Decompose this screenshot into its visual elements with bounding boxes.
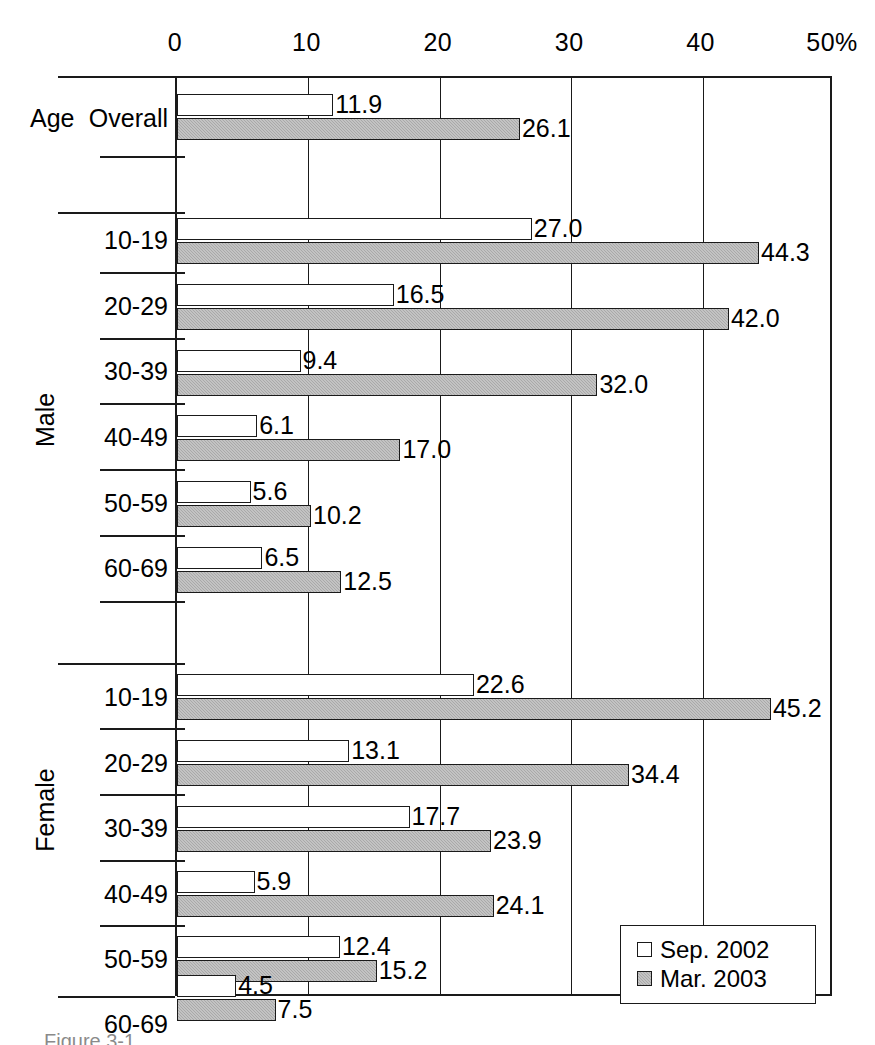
bar-value-label: 17.7 [412, 804, 461, 829]
bar-sep-female-20-29: 13.1 [177, 740, 349, 762]
bar-mar-female-10-19: 45.2 [177, 698, 771, 720]
separator-rule [100, 272, 175, 274]
category-label-male-40-49: 40-49 [104, 425, 168, 450]
legend-swatch-white-square [637, 942, 652, 957]
y-axis-tick [175, 601, 185, 603]
bar-mar-male-30-39: 32.0 [177, 374, 597, 396]
bar-value-label: 32.0 [599, 372, 648, 397]
bar-sep-male-10-19: 27.0 [177, 218, 532, 240]
bar-sep-female-40-49: 5.9 [177, 871, 255, 893]
bar-sep-age-overall: 11.9 [177, 94, 333, 116]
legend-item-mar-2003: Mar. 2003 [637, 964, 801, 993]
y-axis-tick [175, 403, 185, 405]
y-axis-tick [175, 794, 185, 796]
bar-value-label: 17.0 [402, 437, 451, 462]
bar-value-label: 27.0 [534, 216, 583, 241]
separator-rule [100, 794, 175, 796]
legend-item-sep-2002: Sep. 2002 [637, 935, 801, 964]
bar-value-label: 24.1 [496, 893, 545, 918]
bar-value-label: 42.0 [731, 306, 780, 331]
bar-mar-female-60-69: 7.5 [177, 999, 276, 1021]
legend-swatch-gray-square [637, 971, 652, 986]
bar-value-label: 22.6 [476, 672, 525, 697]
separator-rule [58, 76, 175, 78]
legend-label-mar-2003: Mar. 2003 [660, 964, 767, 993]
category-label-female-30-39: 30-39 [104, 816, 168, 841]
bar-sep-male-20-29: 16.5 [177, 284, 394, 306]
bar-sep-female-50-59: 12.4 [177, 936, 340, 958]
legend: Sep. 2002 Mar. 2003 [620, 925, 816, 1004]
category-label-female-10-19: 10-19 [104, 685, 168, 710]
bar-value-label: 26.1 [522, 116, 571, 141]
bar-value-label: 23.9 [493, 828, 542, 853]
bar-sep-female-10-19: 22.6 [177, 674, 474, 696]
gridline-10 [308, 78, 309, 994]
separator-rule [100, 156, 175, 158]
x-axis-tick-50pct: 50% [806, 30, 858, 55]
bar-value-label: 6.5 [264, 545, 299, 570]
separator-rule [100, 925, 175, 927]
bar-mar-male-20-29: 42.0 [177, 308, 729, 330]
bar-mar-male-40-49: 17.0 [177, 439, 400, 461]
separator-rule [100, 338, 175, 340]
bar-value-label: 6.1 [259, 413, 294, 438]
bar-value-label: 5.9 [257, 869, 292, 894]
category-label-female-40-49: 40-49 [104, 882, 168, 907]
bar-mar-male-50-59: 10.2 [177, 505, 311, 527]
y-axis-tick [175, 272, 185, 274]
category-label-age-overall: Overall [89, 106, 168, 131]
bar-value-label: 10.2 [313, 503, 362, 528]
bar-value-label: 9.4 [303, 348, 338, 373]
bar-mar-female-40-49: 24.1 [177, 895, 494, 917]
y-axis-tick [175, 338, 185, 340]
category-label-male-60-69: 60-69 [104, 556, 168, 581]
bar-sep-female-60-69: 4.5 [177, 975, 236, 997]
group-label-female: Female [33, 768, 58, 851]
category-label-male-30-39: 30-39 [104, 359, 168, 384]
x-axis-tick-10: 10 [292, 30, 321, 55]
bar-value-label: 16.5 [396, 282, 445, 307]
bar-value-label: 13.1 [351, 738, 400, 763]
separator-rule [100, 403, 175, 405]
y-axis-tick [175, 925, 185, 927]
y-axis-tick [175, 469, 185, 471]
bar-mar-male-10-19: 44.3 [177, 242, 759, 264]
group-label-male: Male [33, 393, 58, 447]
separator-rule [100, 469, 175, 471]
plot-area: 11.926.127.044.316.542.09.432.06.117.05.… [175, 76, 832, 996]
x-axis-tick-40: 40 [686, 30, 715, 55]
bar-mar-age-overall: 26.1 [177, 118, 520, 140]
y-axis-tick [175, 156, 185, 158]
bar-value-label: 44.3 [761, 240, 810, 265]
bar-mar-female-20-29: 34.4 [177, 764, 629, 786]
y-axis-tick [175, 728, 185, 730]
category-label-male-50-59: 50-59 [104, 491, 168, 516]
separator-rule [100, 601, 175, 603]
bar-mar-female-30-39: 23.9 [177, 830, 491, 852]
x-axis-tick-20: 20 [423, 30, 452, 55]
y-axis-tick [175, 535, 185, 537]
category-label-female-20-29: 20-29 [104, 751, 168, 776]
y-axis-tick [175, 212, 185, 214]
figure-caption: Figure 3-1 [44, 1030, 135, 1045]
bar-sep-male-30-39: 9.4 [177, 350, 301, 372]
y-axis-tick [175, 860, 185, 862]
gridline-20 [440, 78, 441, 994]
bar-value-label: 5.6 [253, 479, 288, 504]
bar-sep-male-40-49: 6.1 [177, 415, 257, 437]
bar-value-label: 11.9 [335, 92, 382, 117]
separator-rule [100, 860, 175, 862]
bar-value-label: 15.2 [379, 958, 428, 983]
bar-value-label: 4.5 [238, 973, 273, 998]
legend-label-sep-2002: Sep. 2002 [660, 935, 769, 964]
x-axis-tick-30: 30 [555, 30, 584, 55]
bar-value-label: 34.4 [631, 762, 680, 787]
separator-rule [100, 728, 175, 730]
y-axis-tick [175, 663, 185, 665]
separator-rule [58, 663, 175, 665]
category-label-male-10-19: 10-19 [104, 228, 168, 253]
separator-rule [100, 535, 175, 537]
chart-container: 01020304050% 11.926.127.044.316.542.09.4… [0, 0, 875, 1045]
separator-rule [58, 996, 175, 998]
category-label-female-50-59: 50-59 [104, 947, 168, 972]
